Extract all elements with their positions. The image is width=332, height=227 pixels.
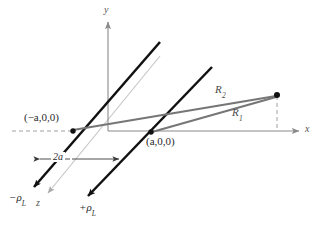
figure-canvas: y x z (−a,0,0) (a,0,0) R2 R1 2a −ρL +ρL [0,0,332,227]
negative-charge-symbol: −ρ [9,191,22,203]
negative-charge-label: −ρL [9,192,26,206]
right-line-base-label: (a,0,0) [146,136,175,147]
ray-R2-subscript: 2 [222,91,226,100]
negative-charge-subscript: L [22,199,26,208]
ray-R2-symbol: R [215,83,222,95]
positive-charge-subscript: L [92,209,96,218]
x-axis-label: x [305,124,309,134]
left-line-base-label: (−a,0,0) [24,112,59,123]
positive-charge-symbol: +ρ [79,201,92,213]
marker-left-base-point [70,128,75,133]
z-axis-label: z [36,198,40,208]
ray-R1-symbol: R [232,106,239,118]
dimension-2a-label: 2a [51,152,65,162]
positive-charge-label: +ρL [79,202,96,216]
ray-R2-label: R2 [215,84,225,98]
ray-R1-subscript: 1 [239,114,243,123]
y-axis-label: y [104,5,108,15]
ray-R1-label: R1 [232,107,242,121]
marker-field-point [274,92,280,98]
marker-right-base-point [148,129,153,134]
